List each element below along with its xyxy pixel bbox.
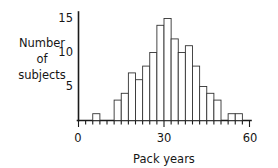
histogram-bar: [228, 114, 235, 121]
histogram-bars: [93, 19, 243, 121]
histogram-bar: [157, 25, 164, 120]
x-tick-label-60: 60: [243, 131, 258, 145]
y-tick-label-10: 10: [58, 45, 73, 59]
y-tick-label-5: 5: [66, 79, 73, 93]
histogram-bar: [185, 46, 192, 121]
histogram-bar: [171, 39, 178, 121]
histogram-bar: [214, 100, 221, 120]
histogram-canvas: Number of subjects 15 10 5 0 30 60 Pack …: [0, 0, 278, 168]
y-tick-label-15: 15: [58, 11, 73, 25]
histogram-bar: [235, 114, 242, 121]
x-axis-title: Pack years: [133, 152, 195, 166]
histogram-bar: [200, 87, 207, 121]
histogram-bar: [136, 80, 143, 121]
histogram-figure: Number of subjects 15 10 5 0 30 60 Pack …: [0, 0, 278, 168]
histogram-bar: [164, 19, 171, 121]
histogram-bar: [93, 114, 100, 121]
histogram-bar: [150, 53, 157, 121]
histogram-bar: [128, 73, 135, 121]
x-tick-label-30: 30: [157, 131, 172, 145]
histogram-bar: [114, 100, 121, 120]
y-axis-title-line-3: subjects: [18, 68, 66, 82]
histogram-bar: [193, 66, 200, 120]
histogram-bar: [207, 93, 214, 120]
histogram-bar: [121, 93, 128, 120]
histogram-bar: [178, 53, 185, 121]
x-axis-ticks: 0 30 60: [74, 121, 257, 146]
histogram-bar: [143, 66, 150, 120]
x-tick-label-0: 0: [74, 131, 81, 145]
y-axis-title: Number of subjects: [18, 36, 66, 82]
y-axis-title-line-2: of: [36, 52, 48, 66]
